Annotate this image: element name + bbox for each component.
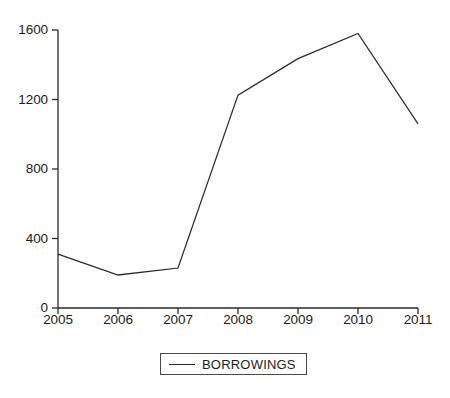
y-tick-label: 800 bbox=[0, 162, 48, 176]
x-tick-label: 2008 bbox=[212, 313, 264, 327]
legend-line-swatch bbox=[169, 364, 195, 365]
x-tick-label: 2006 bbox=[92, 313, 144, 327]
y-tick-label: 1200 bbox=[0, 93, 48, 107]
legend-label-borrowings: BORROWINGS bbox=[202, 358, 296, 371]
line-chart: 040080012001600 200520062007200820092010… bbox=[0, 0, 450, 398]
x-tick-label: 2007 bbox=[152, 313, 204, 327]
chart-legend: BORROWINGS bbox=[160, 353, 307, 375]
x-tick-label: 2009 bbox=[272, 313, 324, 327]
y-tick-label: 400 bbox=[0, 232, 48, 246]
series-line-borrowings bbox=[58, 33, 418, 275]
plot-area: 040080012001600 200520062007200820092010… bbox=[0, 0, 450, 340]
x-tick-label: 2010 bbox=[332, 313, 384, 327]
x-tick-label: 2005 bbox=[32, 313, 84, 327]
y-axis-ticks bbox=[52, 30, 58, 308]
x-tick-label: 2011 bbox=[392, 313, 444, 327]
plot-svg bbox=[0, 0, 450, 340]
y-tick-label: 1600 bbox=[0, 23, 48, 37]
